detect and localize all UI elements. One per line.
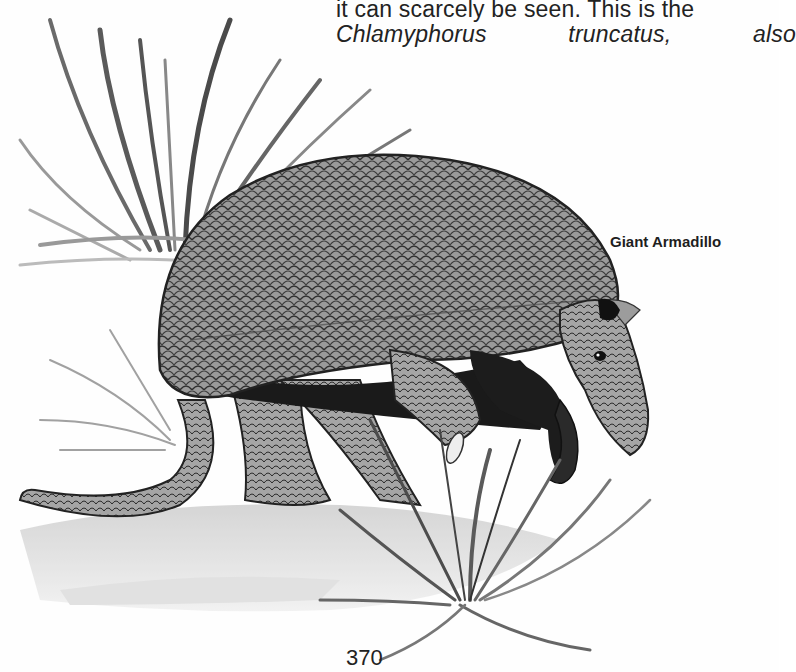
body-text-line-1: it can scarcely be seen. This is the (336, 0, 694, 22)
species-name-genus: Chlamyphorus (336, 21, 487, 47)
armadillo-eye (594, 351, 606, 361)
armadillo-shell (159, 155, 618, 398)
left-grass (40, 330, 175, 450)
figure-caption: Giant Armadillo (610, 233, 721, 250)
armadillo-tail (20, 400, 213, 516)
body-text-line-2: Chlamyphorus truncatus, also (336, 21, 796, 47)
species-name-epithet: truncatus, (568, 21, 671, 47)
body-text-word: also (753, 21, 796, 47)
armadillo-front-leg (390, 350, 480, 445)
page-number: 370 (346, 645, 383, 671)
